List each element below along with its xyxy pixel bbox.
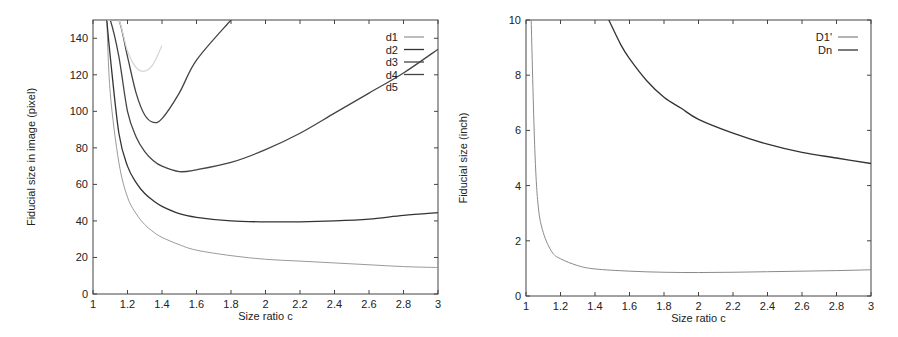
y-tick-label: 80	[76, 142, 88, 154]
x-tick-label: 2.4	[327, 298, 342, 310]
x-tick-label: 3	[868, 300, 874, 312]
x-tick-label: 1.4	[154, 298, 169, 310]
y-tick-label: 4	[515, 180, 521, 192]
chart-fiducial-inch: 11.21.41.61.822.22.42.62.830246810Size r…	[450, 0, 898, 337]
x-tick-label: 1.8	[656, 300, 671, 312]
plot-frame	[526, 20, 871, 296]
x-tick-label: 2.2	[725, 300, 740, 312]
y-tick-label: 0	[82, 288, 88, 300]
x-tick-label: 2	[262, 298, 268, 310]
x-axis-label: Size ratio c	[671, 312, 726, 324]
series-d4-line	[107, 17, 231, 122]
legend-label: D1'	[816, 31, 832, 43]
y-axis-label: Fiducial size in image (pixel)	[25, 88, 37, 226]
x-tick-label: 1.2	[120, 298, 135, 310]
x-tick-label: 2.2	[292, 298, 307, 310]
x-tick-label: 3	[435, 298, 441, 310]
x-tick-label: 2.6	[361, 298, 376, 310]
y-tick-label: 20	[76, 251, 88, 263]
series-d1p-line	[531, 20, 871, 273]
x-tick-label: 1	[523, 300, 529, 312]
y-tick-label: 140	[70, 32, 88, 44]
chart-right-svg: 11.21.41.61.822.22.42.62.830246810Size r…	[450, 0, 898, 337]
y-tick-label: 6	[515, 124, 521, 136]
y-tick-label: 2	[515, 235, 521, 247]
y-tick-label: 60	[76, 178, 88, 190]
x-tick-label: 1.8	[223, 298, 238, 310]
x-tick-label: 2.8	[829, 300, 844, 312]
y-tick-label: 10	[509, 14, 521, 26]
legend-label: d4	[386, 69, 398, 81]
series-d5-line	[107, 18, 162, 72]
y-tick-label: 40	[76, 215, 88, 227]
chart-fiducial-pixel: 11.21.41.61.822.22.42.62.830204060801001…	[0, 0, 450, 337]
y-tick-label: 100	[70, 105, 88, 117]
x-tick-label: 1	[90, 298, 96, 310]
legend-label: d5	[386, 81, 398, 93]
x-tick-label: 1.6	[189, 298, 204, 310]
legend-label: d2	[386, 44, 398, 56]
legend-label: Dn	[818, 44, 832, 56]
x-tick-label: 1.4	[587, 300, 602, 312]
x-tick-label: 1.6	[622, 300, 637, 312]
x-axis-label: Size ratio c	[238, 310, 293, 322]
y-axis-label: Fiducial size (inch)	[457, 112, 469, 203]
x-tick-label: 2	[695, 300, 701, 312]
chart-left-svg: 11.21.41.61.822.22.42.62.830204060801001…	[0, 0, 450, 337]
x-tick-label: 1.2	[553, 300, 568, 312]
legend-label: d3	[386, 56, 398, 68]
x-tick-label: 2.6	[794, 300, 809, 312]
x-tick-label: 2.4	[760, 300, 775, 312]
legend-label: d1	[386, 31, 398, 43]
x-tick-label: 2.8	[396, 298, 411, 310]
y-tick-label: 8	[515, 69, 521, 81]
y-tick-label: 120	[70, 69, 88, 81]
y-tick-label: 0	[515, 290, 521, 302]
